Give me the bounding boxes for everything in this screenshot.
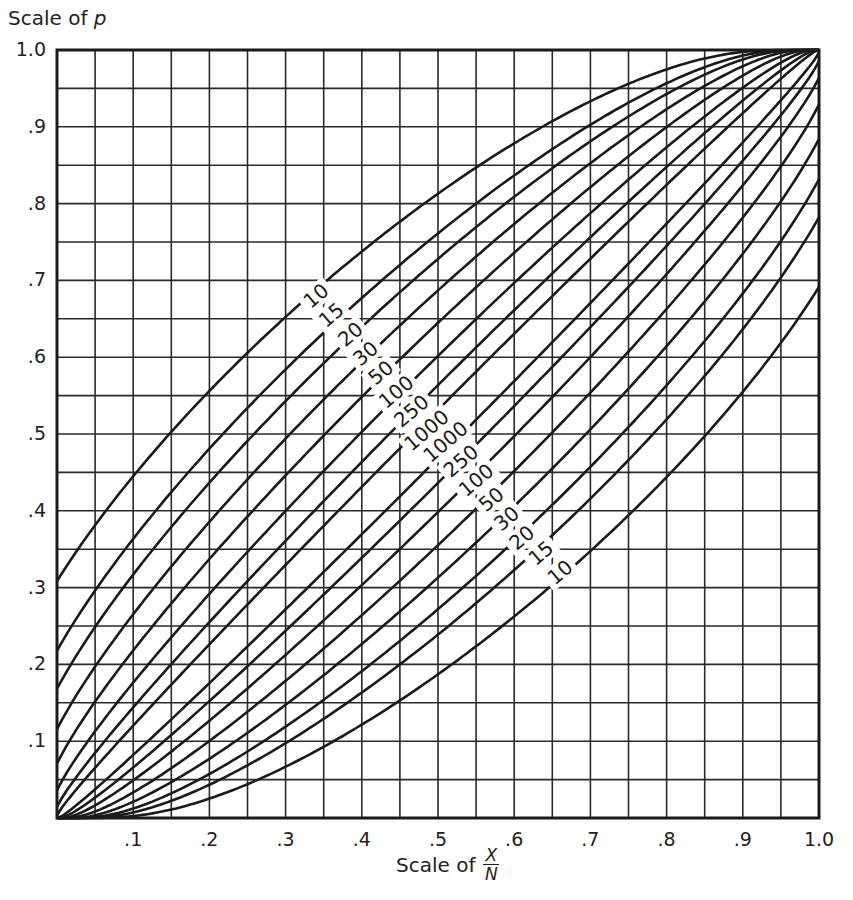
y-tick-label: .7 bbox=[0, 268, 46, 290]
x-tick-label: .7 bbox=[570, 828, 610, 850]
x-axis-title: Scale of X N bbox=[396, 846, 499, 883]
x-axis-title-fraction: X N bbox=[483, 846, 499, 883]
x-tick-label: .3 bbox=[266, 828, 306, 850]
y-tick-label: .3 bbox=[0, 576, 46, 598]
y-axis-title-symbol: p bbox=[94, 6, 107, 30]
y-tick-label: 1.0 bbox=[0, 38, 46, 60]
x-tick-label: 1.0 bbox=[799, 828, 839, 850]
x-tick-label: .8 bbox=[647, 828, 687, 850]
x-tick-label: .4 bbox=[342, 828, 382, 850]
y-tick-label: .1 bbox=[0, 729, 46, 751]
y-axis-title: Scale of p bbox=[8, 6, 107, 30]
x-tick-label: .1 bbox=[113, 828, 153, 850]
y-tick-label: .4 bbox=[0, 499, 46, 521]
fraction-numerator: X bbox=[483, 846, 499, 865]
y-tick-label: .8 bbox=[0, 192, 46, 214]
y-tick-label: .2 bbox=[0, 652, 46, 674]
y-axis-title-text: Scale of bbox=[8, 6, 94, 30]
x-tick-label: .2 bbox=[189, 828, 229, 850]
y-tick-label: .5 bbox=[0, 422, 46, 444]
x-tick-label: .6 bbox=[494, 828, 534, 850]
x-axis-title-text: Scale of bbox=[396, 853, 475, 877]
y-tick-label: .6 bbox=[0, 345, 46, 367]
y-tick-label: .9 bbox=[0, 115, 46, 137]
fraction-denominator: N bbox=[485, 865, 498, 883]
confidence-belt-chart: 1015203050100250100010002501005030201510 bbox=[0, 0, 853, 900]
x-tick-label: .9 bbox=[723, 828, 763, 850]
